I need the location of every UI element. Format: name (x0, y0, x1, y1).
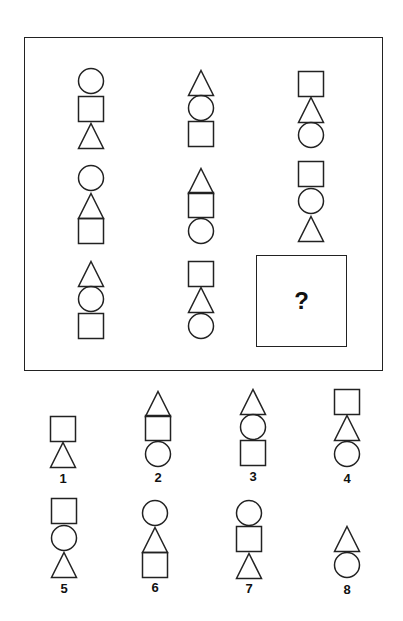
triangle-icon (77, 122, 105, 150)
square-icon (141, 551, 169, 579)
triangle-icon (297, 96, 325, 124)
option-number-label: 3 (243, 470, 263, 483)
square-icon (333, 388, 361, 416)
triangle-icon (333, 525, 361, 553)
option-number-label: 6 (145, 581, 165, 594)
triangle-icon (297, 215, 325, 243)
square-icon (49, 415, 77, 443)
circle-icon (333, 551, 361, 579)
puzzle-canvas: ? 12345678 (0, 0, 403, 621)
square-icon (77, 95, 105, 123)
circle-icon (77, 285, 105, 313)
triangle-icon (77, 192, 105, 220)
circle-icon (141, 499, 169, 527)
circle-icon (187, 312, 215, 340)
triangle-icon (187, 286, 215, 314)
triangle-icon (50, 551, 78, 579)
option-number-label: 2 (148, 471, 168, 484)
circle-icon (235, 499, 263, 527)
square-icon (77, 312, 105, 340)
square-icon (77, 217, 105, 245)
missing-cell-box: ? (256, 255, 347, 347)
triangle-icon (235, 552, 263, 580)
square-icon (50, 497, 78, 525)
circle-icon (297, 121, 325, 149)
triangle-icon (239, 388, 267, 416)
circle-icon (144, 440, 172, 468)
option-number-label: 5 (54, 582, 74, 595)
circle-icon (187, 217, 215, 245)
square-icon (144, 414, 172, 442)
square-icon (187, 260, 215, 288)
triangle-icon (187, 69, 215, 97)
option-number-label: 7 (239, 582, 259, 595)
square-icon (297, 160, 325, 188)
option-number-label: 4 (337, 472, 357, 485)
circle-icon (333, 440, 361, 468)
circle-icon (50, 524, 78, 552)
circle-icon (77, 164, 105, 192)
question-mark: ? (294, 289, 309, 313)
square-icon (235, 525, 263, 553)
circle-icon (297, 187, 325, 215)
square-icon (239, 439, 267, 467)
triangle-icon (333, 414, 361, 442)
square-icon (187, 120, 215, 148)
triangle-icon (141, 526, 169, 554)
square-icon (187, 191, 215, 219)
option-number-label: 1 (53, 472, 73, 485)
option-number-label: 8 (337, 583, 357, 596)
triangle-icon (77, 260, 105, 288)
circle-icon (187, 94, 215, 122)
circle-icon (239, 413, 267, 441)
circle-icon (77, 67, 105, 95)
square-icon (297, 70, 325, 98)
triangle-icon (49, 441, 77, 469)
